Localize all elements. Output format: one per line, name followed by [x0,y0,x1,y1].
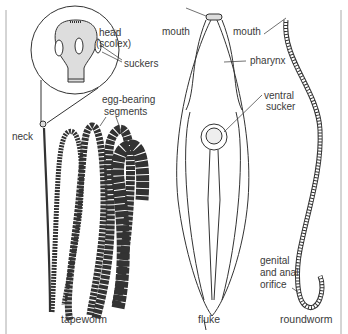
label-roundworm-mouth: mouth [233,26,261,37]
diagram-artwork [0,0,348,334]
tapeworm-body [40,117,143,320]
label-and-anal: and anal [260,267,298,278]
label-sucker: sucker [266,101,295,112]
label-scolex: (scolex) [96,38,131,49]
label-head: head [99,27,121,38]
label-fluke-mouth: mouth [162,26,190,37]
caption-tapeworm: tapeworm [61,313,107,325]
label-segments: segments [104,106,147,117]
caption-roundworm: roundworm [280,313,333,325]
label-orifice: orifice [260,279,287,290]
label-suckers: suckers [124,58,158,69]
label-ventral: ventral [264,90,294,101]
label-egg-bearing: egg-bearing [102,94,155,105]
label-pharynx: pharynx [250,55,286,66]
label-genital: genital [260,255,289,266]
caption-fluke: fluke [198,313,220,325]
label-neck: neck [12,131,33,142]
